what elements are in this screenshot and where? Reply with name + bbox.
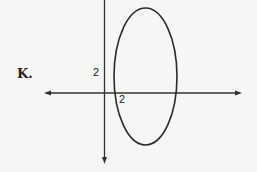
y-axis: [102, 0, 107, 164]
ellipse-curve: [114, 8, 177, 145]
graph: [0, 0, 257, 172]
left-arrow-icon: [44, 91, 51, 96]
down-arrow-icon: [102, 157, 107, 164]
x-axis: [44, 91, 242, 96]
right-arrow-icon: [235, 91, 242, 96]
